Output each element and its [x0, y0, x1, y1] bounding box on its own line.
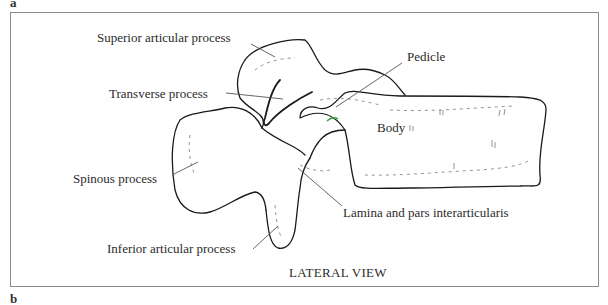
label-superior-articular-process: Superior articular process — [97, 31, 231, 44]
leader-spinous — [172, 162, 198, 175]
spinous-process-outline — [172, 107, 266, 213]
label-body: Body — [377, 121, 405, 134]
label-inferior-articular-process: Inferior articular process — [107, 242, 236, 255]
leader-transverse — [226, 93, 283, 99]
label-transverse-process: Transverse process — [109, 87, 208, 100]
inferior-articular-process-outline — [266, 158, 310, 248]
panel-letter-b: b — [10, 292, 17, 305]
view-caption: LATERAL VIEW — [289, 266, 387, 279]
superior-articular-process-outline — [245, 40, 405, 95]
label-lamina-pars: Lamina and pars interarticularis — [343, 206, 509, 219]
label-pedicle: Pedicle — [407, 50, 445, 63]
vertebra-illustration — [0, 0, 608, 305]
label-spinous-process: Spinous process — [73, 172, 157, 185]
transverse-process-outline — [264, 80, 312, 125]
lamina-outline — [310, 130, 345, 158]
leader-lamina — [298, 168, 342, 206]
leader-superior-articular — [251, 44, 275, 57]
